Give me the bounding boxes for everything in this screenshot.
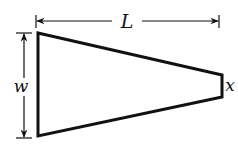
length-label: L	[120, 10, 134, 32]
tapered-plate-diagram: L w x	[0, 0, 238, 146]
length-dimension: L	[36, 10, 219, 32]
tip-label: x	[225, 75, 235, 95]
width-label: w	[14, 76, 29, 96]
width-dimension: w	[14, 33, 32, 138]
trapezoid-shape	[38, 33, 222, 136]
